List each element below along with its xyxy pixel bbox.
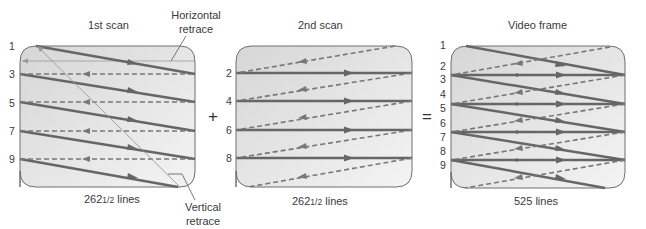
- video-frame-title: Video frame: [508, 19, 567, 31]
- plus-operator: +: [208, 107, 218, 127]
- first-scan-caption: 2621/2 lines: [84, 193, 140, 205]
- line-label: 5: [9, 97, 15, 109]
- first-scan-title: 1st scan: [88, 19, 129, 31]
- line-label: 4: [226, 95, 232, 107]
- line-label: 9: [9, 153, 15, 165]
- line-label: 9: [440, 159, 446, 171]
- line-label: 2: [440, 60, 446, 72]
- line-label: 6: [440, 117, 446, 129]
- line-label: 1: [9, 40, 15, 52]
- caption-number: 262: [84, 193, 102, 205]
- callout-line: Horizontal: [170, 8, 222, 22]
- caption-number: 262: [292, 195, 310, 207]
- first-scan-panel: [20, 36, 195, 200]
- line-label: 7: [440, 131, 446, 143]
- line-label: 1: [440, 39, 446, 51]
- callout-line: retrace: [170, 22, 222, 36]
- second-scan-screen: [236, 46, 412, 187]
- line-label: 7: [9, 125, 15, 137]
- callout-line: Vertical: [180, 200, 226, 214]
- second-scan-caption: 2621/2 lines: [292, 195, 348, 207]
- caption-unit: lines: [322, 195, 348, 207]
- line-label: 2: [226, 67, 232, 79]
- line-label: 5: [440, 102, 446, 114]
- line-label: 3: [9, 68, 15, 80]
- caption-number: 525: [514, 195, 532, 207]
- second-scan-title: 2nd scan: [298, 19, 343, 31]
- caption-unit: lines: [532, 195, 558, 207]
- video-frame-caption: 525 lines: [514, 195, 558, 207]
- line-label: 8: [440, 145, 446, 157]
- line-label: 4: [440, 88, 446, 100]
- horizontal-retrace-callout: Horizontal retrace: [170, 8, 222, 36]
- line-label: 3: [440, 73, 446, 85]
- caption-fraction: 1/2: [310, 197, 322, 207]
- second-scan-panel: [236, 46, 412, 187]
- line-label: 8: [226, 152, 232, 164]
- line-label: 6: [226, 124, 232, 136]
- caption-unit: lines: [114, 193, 140, 205]
- callout-line: retrace: [180, 214, 226, 228]
- equals-operator: =: [422, 107, 432, 127]
- video-frame-panel: [451, 46, 625, 188]
- caption-fraction: 1/2: [102, 195, 114, 205]
- vertical-retrace-callout: Vertical retrace: [180, 200, 226, 228]
